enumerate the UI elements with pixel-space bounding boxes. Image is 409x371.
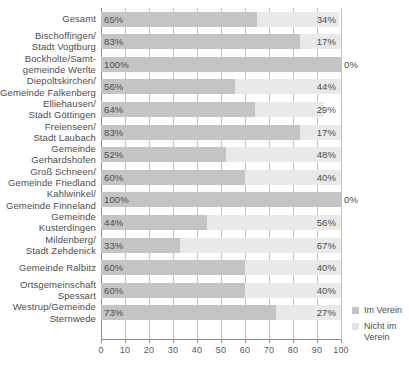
legend-swatch-icon-nicht-im-verein	[352, 323, 359, 330]
category-label-line: Gemeinde	[0, 211, 96, 222]
x-tick-label-80: 80	[281, 345, 305, 355]
x-tick-label-30: 30	[161, 345, 185, 355]
bar-value-nicht-im-verein: 0%	[344, 192, 358, 207]
x-tick-60	[245, 339, 246, 343]
bar-wrap	[101, 305, 341, 320]
bar-value-nicht-im-verein: 40%	[317, 260, 336, 275]
legend-item-im-verein: Im Verein	[352, 305, 402, 316]
bar-wrap	[101, 192, 341, 207]
legend-label-im-verein: Im Verein	[364, 305, 402, 315]
category-label-line: Stadt Laubach	[0, 132, 96, 143]
category-label-line: Groß Schneen/	[0, 166, 96, 177]
category-label: Gesamt	[0, 13, 96, 24]
bar-value-nicht-im-verein: 40%	[317, 283, 336, 298]
bar-row: 65%34%	[101, 8, 341, 31]
bar-segment-im-verein[interactable]	[101, 102, 255, 117]
chart-legend: Im Verein Nicht im Verein	[352, 305, 402, 348]
category-label: Mildenberg/Stadt Zehdenick	[0, 234, 96, 256]
x-tick-20	[149, 339, 150, 343]
bar-segment-im-verein[interactable]	[101, 192, 341, 207]
category-label-line: Gemeinde Ralbitz	[0, 262, 96, 273]
x-tick-label-0: 0	[89, 345, 113, 355]
bar-value-im-verein: 52%	[104, 147, 123, 162]
category-label-line: Sternwede	[0, 313, 96, 324]
category-label-line: Diepoltskirchen/	[0, 75, 96, 86]
bar-value-im-verein: 83%	[104, 125, 123, 140]
category-label: Kahlwinkel/Gemeinde Finneland	[0, 188, 96, 210]
bar-value-im-verein: 44%	[104, 215, 123, 230]
bar-segment-im-verein[interactable]	[101, 34, 300, 49]
bar-segment-im-verein[interactable]	[101, 305, 276, 320]
bar-value-im-verein: 100%	[104, 57, 129, 72]
category-label: Bischoffingen/Stadt Vogtburg	[0, 30, 96, 52]
bar-row: 44%56%	[101, 211, 341, 234]
bar-row: 52%48%	[101, 144, 341, 167]
bar-value-nicht-im-verein: 17%	[317, 125, 336, 140]
bar-value-nicht-im-verein: 40%	[317, 170, 336, 185]
category-label-line: Kahlwinkel/	[0, 188, 96, 199]
bar-segment-im-verein[interactable]	[101, 12, 257, 27]
bar-segment-im-verein[interactable]	[101, 125, 300, 140]
bar-wrap	[101, 34, 341, 49]
category-label-line: Kusterdingen	[0, 222, 96, 233]
bar-value-nicht-im-verein: 44%	[317, 79, 336, 94]
bar-row: 60%40%	[101, 279, 341, 302]
x-tick-label-100: 100	[329, 345, 353, 355]
bar-wrap	[101, 125, 341, 140]
category-label-line: Gemeinde Friedland	[0, 177, 96, 188]
legend-swatch-icon-im-verein	[352, 307, 359, 314]
bar-value-im-verein: 64%	[104, 102, 123, 117]
category-label-line: Westrup/Gemeinde	[0, 301, 96, 312]
bar-row: 83%17%	[101, 121, 341, 144]
category-label-line: Mildenberg/	[0, 234, 96, 245]
x-tick-label-50: 50	[209, 345, 233, 355]
bar-value-nicht-im-verein: 48%	[317, 147, 336, 162]
bar-row: 100%0%	[101, 53, 341, 76]
x-tick-label-70: 70	[257, 345, 281, 355]
bar-value-im-verein: 73%	[104, 305, 123, 320]
bar-segment-im-verein[interactable]	[101, 57, 341, 72]
x-tick-50	[221, 339, 222, 343]
category-label-line: Gerhardshofen	[0, 154, 96, 165]
category-axis-labels: GesamtBischoffingen/Stadt VogtburgBockho…	[0, 8, 96, 339]
x-tick-label-90: 90	[305, 345, 329, 355]
bar-value-nicht-im-verein: 67%	[317, 238, 336, 253]
bar-value-im-verein: 56%	[104, 79, 123, 94]
bar-segment-nicht-im-verein[interactable]	[255, 102, 325, 117]
bar-value-nicht-im-verein: 29%	[317, 102, 336, 117]
legend-label-nicht-im-verein-line-1: Nicht im	[364, 321, 397, 331]
x-tick-70	[269, 339, 270, 343]
category-label: Elliehausen/Stadt Göttingen	[0, 98, 96, 120]
x-tick-40	[197, 339, 198, 343]
bar-value-im-verein: 60%	[104, 283, 123, 298]
bar-wrap	[101, 12, 341, 27]
plot-area: 65%34%83%17%100%0%56%44%64%29%83%17%52%4…	[101, 8, 341, 339]
category-label: Diepoltskirchen/Gemeinde Falkenberg	[0, 75, 96, 97]
category-label-line: Elliehausen/	[0, 98, 96, 109]
bar-row: 60%40%	[101, 166, 341, 189]
category-label-line: Stadt Zehdenick	[0, 245, 96, 256]
bar-wrap	[101, 238, 341, 253]
x-tick-80	[293, 339, 294, 343]
category-label-line: Stadt Göttingen	[0, 109, 96, 120]
category-label: OrtsgemeinschaftSpessart	[0, 279, 96, 301]
x-tick-100	[341, 339, 342, 343]
bar-value-im-verein: 60%	[104, 170, 123, 185]
bar-row: 100%0%	[101, 189, 341, 212]
x-tick-label-60: 60	[233, 345, 257, 355]
bar-value-nicht-im-verein: 27%	[317, 305, 336, 320]
bar-value-nicht-im-verein: 0%	[344, 57, 358, 72]
category-label-line: Gesamt	[0, 13, 96, 24]
x-tick-label-40: 40	[185, 345, 209, 355]
bar-row: 83%17%	[101, 31, 341, 54]
x-tick-label-10: 10	[113, 345, 137, 355]
category-label: Bockholte/Samt-gemeinde Werlte	[0, 53, 96, 75]
category-label-line: Ortsgemeinschaft	[0, 279, 96, 290]
bar-value-im-verein: 60%	[104, 260, 123, 275]
category-label-line: Gemeinde Falkenberg	[0, 87, 96, 98]
bar-wrap	[101, 147, 341, 162]
bar-value-im-verein: 33%	[104, 238, 123, 253]
category-label-line: Gemeinde	[0, 143, 96, 154]
bar-row: 64%29%	[101, 98, 341, 121]
bar-value-nicht-im-verein: 56%	[317, 215, 336, 230]
